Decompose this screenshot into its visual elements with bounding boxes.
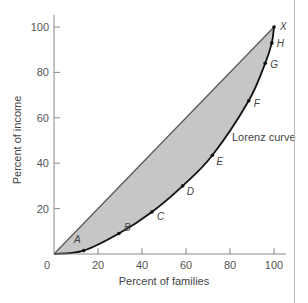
point-label-h: H xyxy=(277,38,285,49)
panel-border xyxy=(294,0,295,303)
y-tick-label: 40 xyxy=(37,157,49,169)
point-d xyxy=(181,184,185,188)
point-label-b: B xyxy=(124,222,131,233)
point-label-g: G xyxy=(270,59,278,70)
lorenz-chart: ABCDEFGHXLorenz curve Percent of familie… xyxy=(0,0,308,303)
point-x xyxy=(272,25,276,29)
y-axis-label: Percent of income xyxy=(11,96,23,185)
point-label-c: C xyxy=(157,211,165,222)
point-h xyxy=(270,41,274,45)
point-c xyxy=(150,210,154,214)
point-e xyxy=(211,153,215,157)
x-tick-label: 20 xyxy=(92,259,104,271)
x-tick-label: 80 xyxy=(224,259,236,271)
point-label-x: X xyxy=(279,21,287,32)
point-b xyxy=(117,232,121,236)
origin-label: 0 xyxy=(44,259,50,271)
point-label-e: E xyxy=(216,156,223,167)
x-axis-label: Percent of families xyxy=(119,275,210,287)
y-tick-label: 20 xyxy=(37,203,49,215)
point-label-a: A xyxy=(73,234,81,245)
lorenz-curve-annotation: Lorenz curve xyxy=(232,131,296,143)
point-label-f: F xyxy=(254,98,261,109)
point-label-d: D xyxy=(187,186,194,197)
x-tick-label: 100 xyxy=(265,259,283,271)
x-tick-label: 60 xyxy=(180,259,192,271)
point-a xyxy=(82,249,86,253)
point-f xyxy=(247,99,251,103)
point-g xyxy=(263,62,267,66)
y-tick-label: 80 xyxy=(37,66,49,78)
x-tick-label: 40 xyxy=(136,259,148,271)
y-tick-label: 100 xyxy=(31,21,49,33)
y-tick-label: 60 xyxy=(37,112,49,124)
